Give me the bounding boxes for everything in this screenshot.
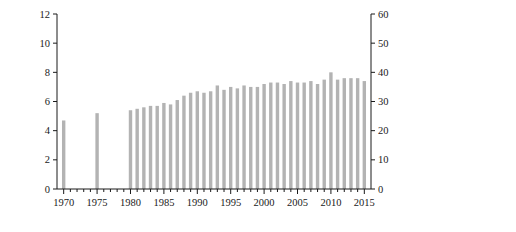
bar-1987 [176,100,179,189]
bar-2010 [329,72,332,189]
bar-2005 [296,83,299,189]
agricultural-output-chart: 0246810120102030405060197019751980198519… [0,0,516,232]
bar-1997 [242,85,245,189]
bar-2000 [262,84,265,189]
xtick-label-1995: 1995 [220,197,241,208]
ytick-label-2: 2 [45,154,50,165]
bar-2012 [343,78,346,189]
y2tick-label-30: 30 [378,96,389,107]
bar-1992 [209,91,212,189]
bar-2009 [323,80,326,189]
bar-1991 [202,93,205,189]
bar-1998 [249,87,252,189]
bar-1981 [135,109,138,189]
ytick-label-12: 12 [40,9,51,20]
y2tick-label-50: 50 [378,38,389,49]
bar-1975 [95,113,98,189]
xtick-label-1985: 1985 [153,197,174,208]
xtick-label-1975: 1975 [87,197,108,208]
bar-1989 [189,93,192,189]
xtick-label-2005: 2005 [287,197,308,208]
bar-1993 [216,85,219,189]
bar-2011 [336,80,339,189]
bar-1995 [229,87,232,189]
y2tick-label-60: 60 [378,9,389,20]
ytick-label-0: 0 [45,184,50,195]
bar-2008 [316,84,319,189]
bar-1985 [162,103,165,189]
xtick-label-1990: 1990 [187,197,208,208]
bar-2004 [289,81,292,189]
bar-1986 [169,104,172,189]
xtick-label-2010: 2010 [320,197,341,208]
bar-2003 [282,84,285,189]
xtick-label-2000: 2000 [254,197,275,208]
bar-1970 [62,120,65,189]
chart-figure: 0246810120102030405060197019751980198519… [0,0,516,232]
ytick-label-8: 8 [45,67,50,78]
bar-2002 [276,83,279,189]
bar-2001 [269,83,272,189]
bar-2013 [349,78,352,189]
y2tick-label-40: 40 [378,67,389,78]
bar-1996 [236,88,239,189]
bar-1984 [156,106,159,189]
bar-1990 [196,91,199,189]
ytick-label-6: 6 [45,96,50,107]
bar-1988 [182,96,185,189]
bar-1983 [149,106,152,189]
bar-1982 [142,107,145,189]
bar-2015 [363,81,366,189]
xtick-label-2015: 2015 [354,197,375,208]
xtick-label-1980: 1980 [120,197,141,208]
xtick-label-1970: 1970 [53,197,74,208]
ytick-label-10: 10 [40,38,51,49]
y2tick-label-10: 10 [378,154,389,165]
bar-2007 [309,81,312,189]
ytick-label-4: 4 [45,125,51,136]
bar-1980 [129,110,132,189]
y2tick-label-20: 20 [378,125,389,136]
y2tick-label-0: 0 [378,184,383,195]
bar-1999 [256,87,259,189]
bar-2014 [356,78,359,189]
bar-1994 [222,90,225,189]
bar-2006 [302,83,305,189]
